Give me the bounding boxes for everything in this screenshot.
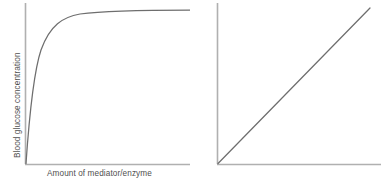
data-line-linear (218, 8, 370, 164)
y-axis-label-left: Blood glucose concentration (14, 52, 22, 158)
linear-line-plot (190, 0, 381, 178)
data-curve-saturating (26, 10, 190, 164)
x-axis-label-left: Amount of mediator/enzyme (47, 170, 152, 178)
chart-panel-right: Blood glucose concentration Area of medi… (190, 0, 381, 178)
chart-panel-left: Blood glucose concentration Amount of me… (0, 0, 190, 178)
two-panel-figure: Blood glucose concentration Amount of me… (0, 0, 381, 178)
saturating-curve-plot (0, 0, 190, 178)
